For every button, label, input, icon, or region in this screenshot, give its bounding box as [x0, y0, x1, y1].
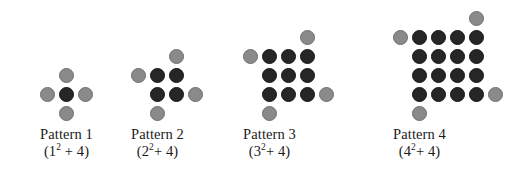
pattern-title: Pattern 1 [40, 126, 93, 142]
gray-dot-left-of-top-row [243, 49, 258, 64]
dark-dot [469, 49, 484, 64]
dark-dot [469, 68, 484, 83]
expression-base: (3 [249, 143, 261, 159]
expression-base: (4 [399, 143, 411, 159]
expression-tail: + 4) [266, 143, 290, 159]
dark-dot [300, 68, 315, 83]
gray-dot-left-of-top-row [393, 30, 408, 45]
dark-dot [412, 30, 427, 45]
dot-field-pattern-3 [243, 30, 334, 121]
pattern-caption-1: Pattern 1(12 + 4) [40, 126, 93, 159]
pattern-group-3: Pattern 3(32+ 4) [243, 30, 334, 177]
dark-dot [431, 68, 446, 83]
gray-dot-right-of-bottom-row [78, 87, 93, 102]
expression-tail: + 4) [154, 143, 178, 159]
dark-dot [450, 49, 465, 64]
gray-dot-right-of-bottom-row [188, 87, 203, 102]
dot-field-pattern-1 [40, 68, 93, 121]
dark-dot [150, 68, 165, 83]
dark-dot [412, 49, 427, 64]
pattern-group-2: Pattern 2(22+ 4) [131, 49, 203, 177]
pattern-expression: (12 + 4) [40, 143, 93, 159]
dark-dot [281, 68, 296, 83]
dark-dot [300, 87, 315, 102]
dark-dot [59, 87, 74, 102]
pattern-group-4: Pattern 4(42+ 4) [393, 11, 503, 177]
dark-dot [412, 68, 427, 83]
gray-dot-below-bottom-left [262, 106, 277, 121]
dark-dot [450, 30, 465, 45]
pattern-expression: (32+ 4) [224, 143, 315, 159]
gray-dot-below-bottom-left [150, 106, 165, 121]
gray-dot-right-of-bottom-row [488, 87, 503, 102]
dark-dot [262, 49, 277, 64]
gray-dot-above-top-right [300, 30, 315, 45]
gray-dot-right-of-bottom-row [319, 87, 334, 102]
dot-pattern-figure: Pattern 1(12 + 4)Pattern 2(22+ 4)Pattern… [0, 0, 525, 177]
pattern-expression: (22+ 4) [122, 143, 194, 159]
pattern-caption-4: Pattern 4(42+ 4) [365, 126, 475, 159]
expression-tail: + 4) [61, 143, 89, 159]
dark-dot [469, 87, 484, 102]
dark-dot [262, 87, 277, 102]
dark-dot [169, 87, 184, 102]
dark-dot [412, 87, 427, 102]
pattern-expression: (42+ 4) [365, 143, 475, 159]
gray-dot-left-of-top-row [40, 87, 55, 102]
dark-dot [262, 68, 277, 83]
dark-dot [431, 49, 446, 64]
dark-dot [450, 87, 465, 102]
dark-dot [450, 68, 465, 83]
dot-field-pattern-4 [393, 11, 503, 121]
expression-base: (2 [137, 143, 149, 159]
gray-dot-below-bottom-left [59, 106, 74, 121]
pattern-caption-3: Pattern 3(32+ 4) [224, 126, 315, 159]
dark-dot [169, 68, 184, 83]
pattern-group-1: Pattern 1(12 + 4) [40, 68, 93, 177]
gray-dot-above-top-right [469, 11, 484, 26]
expression-tail: + 4) [416, 143, 440, 159]
dark-dot [281, 87, 296, 102]
gray-dot-left-of-top-row [131, 68, 146, 83]
dark-dot [431, 87, 446, 102]
dark-dot [431, 30, 446, 45]
pattern-caption-2: Pattern 2(22+ 4) [122, 126, 194, 159]
gray-dot-above-top-right [169, 49, 184, 64]
pattern-title: Pattern 4 [365, 126, 475, 142]
dark-dot [150, 87, 165, 102]
gray-dot-below-bottom-left [412, 106, 427, 121]
dot-field-pattern-2 [131, 49, 203, 121]
dark-dot [469, 30, 484, 45]
expression-base: (1 [44, 143, 56, 159]
dark-dot [300, 49, 315, 64]
dark-dot [281, 49, 296, 64]
pattern-title: Pattern 2 [122, 126, 194, 142]
gray-dot-above-top-right [59, 68, 74, 83]
pattern-title: Pattern 3 [224, 126, 315, 142]
